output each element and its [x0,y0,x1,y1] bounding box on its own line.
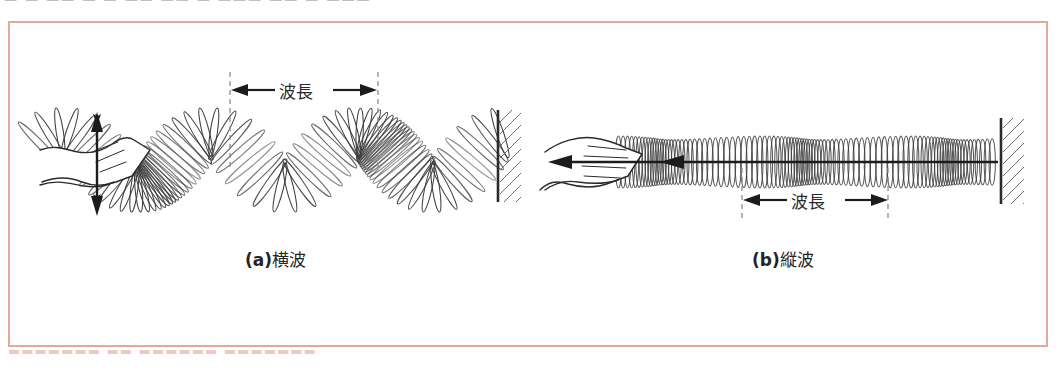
panel-a-title: 横波 [272,250,306,270]
panel-a-wavelength-label: 波長 [279,78,313,103]
figure-canvas [0,0,1057,368]
panel-a-marker: (a) [245,250,272,270]
panel-a-caption: (a)横波 [245,246,306,271]
panel-b-title: 縦波 [780,250,814,270]
panel-a-transverse-wave [16,72,524,230]
panel-b-caption: (b)縦波 [752,246,814,271]
panel-b-wall-icon [1001,104,1027,224]
panel-a-wall-icon [498,98,524,230]
panel-b-wavelength-label: 波長 [791,188,825,213]
panel-a-hand-icon [40,138,150,187]
panel-b-marker: (b) [752,250,780,270]
panel-b-longitudinal-wave [540,104,1027,224]
